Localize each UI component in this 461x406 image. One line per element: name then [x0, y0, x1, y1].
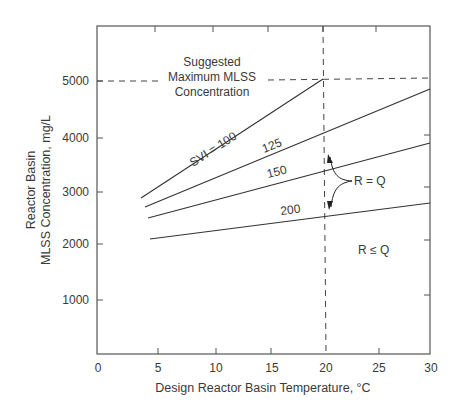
right-ticks: [424, 135, 430, 295]
svg-text:Maximum MLSS: Maximum MLSS: [168, 70, 256, 84]
y-axis-title-line1: Reactor Basin: [24, 151, 38, 230]
x-ticks: [158, 348, 379, 354]
top-ticks: [155, 26, 376, 32]
line-svi-125: [145, 89, 430, 207]
label-svi-200: 200: [280, 202, 302, 218]
r-equals-q-label: R = Q: [354, 174, 386, 188]
chart: 5000 4000 3000 2000 1000 0 5 10 15 20 25…: [0, 0, 461, 406]
x-tick-0: 0: [95, 361, 102, 375]
label-svi-125: 125: [260, 135, 284, 156]
y-tick-2000: 2000: [62, 237, 89, 251]
y-tick-3000: 3000: [62, 185, 89, 199]
x-tick-10: 10: [209, 361, 223, 375]
y-axis-title: Reactor Basin MLSS Concentration, mg/L: [24, 115, 53, 265]
max-mlss-dashed-line: [97, 78, 430, 81]
plot-area: [97, 26, 430, 354]
svg-text:Concentration: Concentration: [175, 85, 250, 99]
x-axis-title: Design Reactor Basin Temperature, °C: [155, 381, 370, 395]
y-tick-5000: 5000: [62, 74, 89, 88]
x-tick-labels: 0 5 10 15 20 25 30: [95, 361, 438, 375]
max-mlss-label: Suggested Maximum MLSS Concentration: [168, 55, 256, 99]
y-tick-4000: 4000: [62, 131, 89, 145]
label-svi-100: SVI = 100: [187, 129, 239, 170]
temperature-20-dashed-line: [323, 26, 326, 354]
arrow-up-icon: [327, 154, 333, 163]
x-tick-5: 5: [155, 361, 162, 375]
x-tick-25: 25: [372, 361, 386, 375]
y-tick-1000: 1000: [62, 293, 89, 307]
x-tick-20: 20: [319, 361, 333, 375]
svg-text:Suggested: Suggested: [183, 55, 240, 69]
r-le-q-label: R ≤ Q: [358, 243, 389, 257]
arrow-down-icon: [327, 201, 333, 210]
x-tick-15: 15: [265, 361, 279, 375]
y-axis-title-line2: MLSS Concentration, mg/L: [39, 115, 53, 265]
x-tick-30: 30: [424, 361, 438, 375]
y-ticks: [97, 81, 103, 300]
label-svi-150: 150: [265, 162, 288, 181]
y-tick-labels: 5000 4000 3000 2000 1000: [62, 74, 89, 307]
